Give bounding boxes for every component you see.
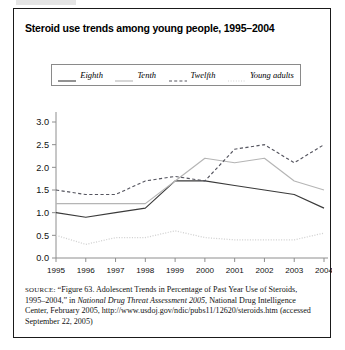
source-prefix: SOURCE: (25, 286, 56, 293)
x-tick-group: 1995199619971998199920002001200220032004 (47, 258, 332, 275)
chart-plot-area: 0.00.51.01.52.02.53.01995199619971998199… (14, 99, 332, 279)
legend-swatch-dotted (228, 71, 246, 79)
x-tick-label: 2004 (315, 266, 332, 275)
x-tick-label: 1995 (47, 266, 66, 275)
figure-title: Steroid use trends among young people, 1… (25, 22, 274, 34)
figure-container: Steroid use trends among young people, 1… (13, 8, 331, 338)
y-tick-label: 1.0 (36, 208, 49, 218)
legend-swatch-dashed (169, 71, 187, 79)
page-top-artifact (16, 0, 76, 5)
legend-label: Twelfth (191, 70, 216, 80)
x-tick-label: 1998 (136, 266, 155, 275)
chart-series-group (56, 145, 324, 245)
series-line-young-adults (56, 231, 324, 245)
x-tick-label: 2002 (255, 266, 274, 275)
x-tick-label: 1996 (77, 266, 96, 275)
chart-legend: EighthTenthTwelfthYoung adults (51, 64, 301, 86)
y-tick-label: 1.5 (36, 185, 49, 195)
x-tick-label: 2001 (226, 266, 245, 275)
y-tick-label: 0.5 (36, 231, 49, 241)
y-tick-label: 3.0 (36, 117, 49, 127)
legend-swatch-solid (115, 71, 133, 79)
x-tick-label: 2000 (196, 266, 215, 275)
legend-label: Young adults (250, 70, 294, 80)
source-italic-title: National Drug Threat Assessment 2005 (77, 296, 205, 305)
x-tick-label: 1999 (166, 266, 185, 275)
y-tick-group: 0.00.51.01.52.02.53.0 (36, 117, 56, 263)
series-line-eighth (56, 181, 324, 217)
legend-label: Eighth (80, 70, 103, 80)
source-note: SOURCE: “Figure 63. Adolescent Trends in… (25, 285, 317, 327)
chart-axes (56, 112, 328, 258)
legend-swatch-solid (58, 71, 76, 79)
y-tick-label: 2.5 (36, 140, 49, 150)
line-chart: 0.00.51.01.52.02.53.01995199619971998199… (14, 99, 332, 279)
legend-item-eighth[interactable]: Eighth (58, 70, 103, 80)
y-tick-label: 2.0 (36, 163, 49, 173)
legend-item-tenth[interactable]: Tenth (115, 70, 156, 80)
x-tick-label: 2003 (285, 266, 304, 275)
legend-item-twelfth[interactable]: Twelfth (169, 70, 216, 80)
x-tick-label: 1997 (107, 266, 126, 275)
legend-item-young-adults[interactable]: Young adults (228, 70, 294, 80)
legend-label: Tenth (137, 70, 156, 80)
y-tick-label: 0.0 (36, 253, 49, 263)
